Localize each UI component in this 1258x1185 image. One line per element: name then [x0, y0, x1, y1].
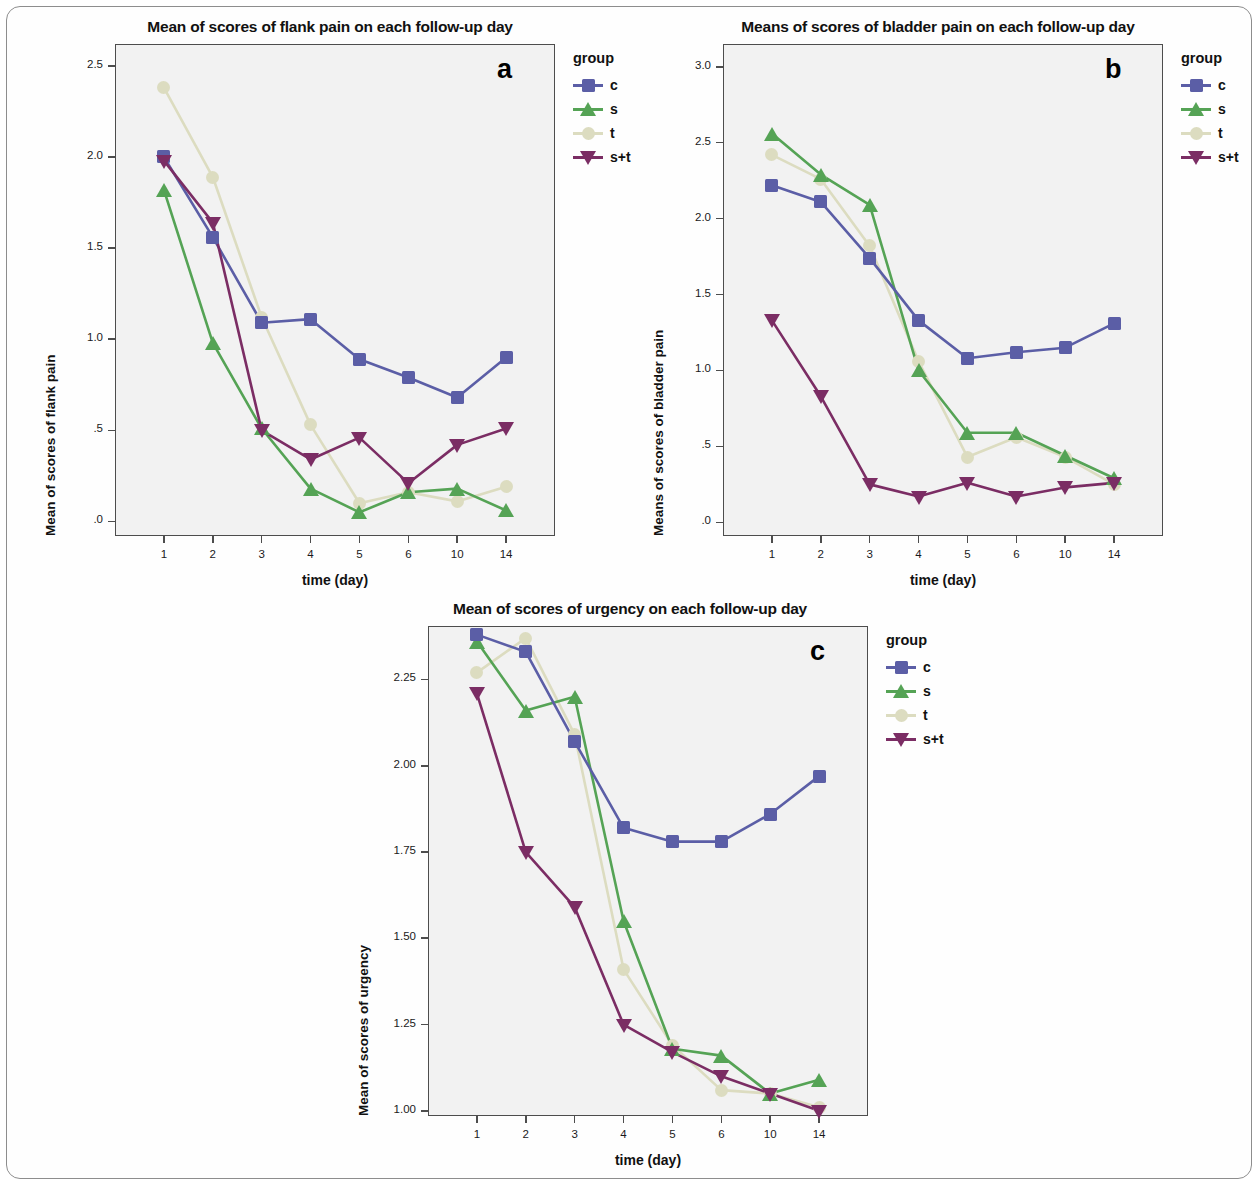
marker-triangle-up: [811, 1073, 827, 1087]
marker-square: [764, 808, 777, 821]
legend-item-splust[interactable]: s+t: [573, 145, 631, 169]
series-line-c: [164, 157, 506, 398]
marker-triangle-up: [616, 914, 632, 928]
marker-square: [1190, 79, 1203, 92]
marker-triangle-down: [959, 477, 975, 491]
marker-triangle-down: [811, 1105, 827, 1119]
marker-square: [451, 391, 464, 404]
marker-square: [1010, 346, 1023, 359]
legend-title: group: [1181, 50, 1239, 66]
marker-triangle-up: [567, 690, 583, 704]
series-line-splust: [164, 161, 506, 484]
legend-swatch-splust-icon: [573, 147, 603, 167]
legend-swatch-c-icon: [573, 75, 603, 95]
legend-swatch-t-icon: [1181, 123, 1211, 143]
legend: groupcsts+t: [573, 50, 631, 169]
series-lines-b: [628, 18, 1248, 593]
marker-triangle-down: [580, 151, 596, 165]
legend-label: c: [923, 659, 931, 675]
legend-label: t: [610, 125, 615, 141]
marker-triangle-up: [449, 482, 465, 496]
marker-triangle-up: [862, 198, 878, 212]
marker-triangle-up: [1057, 449, 1073, 463]
legend-swatch-t-icon: [573, 123, 603, 143]
legend-item-t[interactable]: t: [1181, 121, 1239, 145]
marker-triangle-down: [616, 1019, 632, 1033]
marker-square: [519, 645, 532, 658]
marker-triangle-up: [580, 102, 596, 116]
marker-triangle-up: [518, 704, 534, 718]
legend-swatch-c-icon: [886, 657, 916, 677]
marker-triangle-up: [764, 127, 780, 141]
marker-square: [353, 353, 366, 366]
marker-square: [304, 313, 317, 326]
marker-triangle-down: [449, 439, 465, 453]
marker-triangle-down: [664, 1046, 680, 1060]
marker-square: [863, 252, 876, 265]
marker-square: [765, 179, 778, 192]
marker-triangle-down: [469, 687, 485, 701]
marker-triangle-up: [498, 503, 514, 517]
legend-swatch-splust-icon: [1181, 147, 1211, 167]
legend-label: c: [610, 77, 618, 93]
legend-item-s[interactable]: s: [1181, 97, 1239, 121]
legend-swatch-s-icon: [1181, 99, 1211, 119]
marker-triangle-down: [911, 491, 927, 505]
marker-square: [961, 352, 974, 365]
marker-square: [206, 231, 219, 244]
legend-item-splust[interactable]: s+t: [886, 727, 944, 751]
marker-circle: [519, 632, 532, 645]
marker-square: [402, 371, 415, 384]
marker-triangle-down: [1106, 477, 1122, 491]
legend-item-t[interactable]: t: [573, 121, 631, 145]
marker-square: [912, 314, 925, 327]
marker-square: [255, 316, 268, 329]
marker-circle: [451, 495, 464, 508]
marker-circle: [1190, 127, 1203, 140]
legend-item-c[interactable]: c: [886, 655, 944, 679]
legend-label: t: [1218, 125, 1223, 141]
legend-label: s+t: [1218, 149, 1239, 165]
legend-title: group: [573, 50, 631, 66]
series-line-splust: [477, 693, 819, 1111]
marker-triangle-down: [862, 478, 878, 492]
marker-triangle-up: [351, 505, 367, 519]
marker-triangle-down: [1057, 481, 1073, 495]
legend-item-splust[interactable]: s+t: [1181, 145, 1239, 169]
marker-square: [617, 821, 630, 834]
marker-circle: [617, 963, 630, 976]
marker-triangle-down: [156, 155, 172, 169]
marker-triangle-down: [764, 314, 780, 328]
marker-triangle-down: [1008, 491, 1024, 505]
legend-item-s[interactable]: s: [573, 97, 631, 121]
marker-circle: [715, 1084, 728, 1097]
legend-label: s+t: [923, 731, 944, 747]
marker-square: [1059, 341, 1072, 354]
legend-item-t[interactable]: t: [886, 703, 944, 727]
marker-circle: [895, 709, 908, 722]
marker-circle: [206, 171, 219, 184]
marker-circle: [500, 480, 513, 493]
marker-triangle-down: [400, 477, 416, 491]
legend-item-s[interactable]: s: [886, 679, 944, 703]
marker-triangle-up: [1008, 426, 1024, 440]
marker-square: [500, 351, 513, 364]
legend-label: s: [1218, 101, 1226, 117]
marker-triangle-up: [205, 336, 221, 350]
marker-triangle-up: [1188, 102, 1204, 116]
legend-label: t: [923, 707, 928, 723]
marker-triangle-down: [351, 432, 367, 446]
legend-item-c[interactable]: c: [573, 73, 631, 97]
legend-item-c[interactable]: c: [1181, 73, 1239, 97]
marker-triangle-down: [518, 846, 534, 860]
chart-panel-a: Mean of scores of flank pain on each fol…: [20, 18, 640, 593]
marker-triangle-up: [911, 363, 927, 377]
legend-title: group: [886, 632, 944, 648]
marker-triangle-up: [813, 168, 829, 182]
marker-square: [814, 195, 827, 208]
marker-square: [666, 835, 679, 848]
marker-triangle-up: [303, 482, 319, 496]
legend-label: s: [923, 683, 931, 699]
legend-swatch-splust-icon: [886, 729, 916, 749]
marker-triangle-down: [303, 453, 319, 467]
